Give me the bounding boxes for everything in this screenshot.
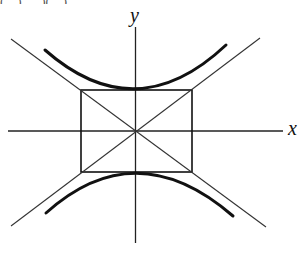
- lower-hyperbola-branch: [46, 173, 233, 216]
- y-axis-label: y: [130, 4, 139, 27]
- asymptote-descending: [11, 39, 266, 227]
- x-axis-label: x: [288, 117, 297, 140]
- hyperbola-diagram: [0, 0, 302, 257]
